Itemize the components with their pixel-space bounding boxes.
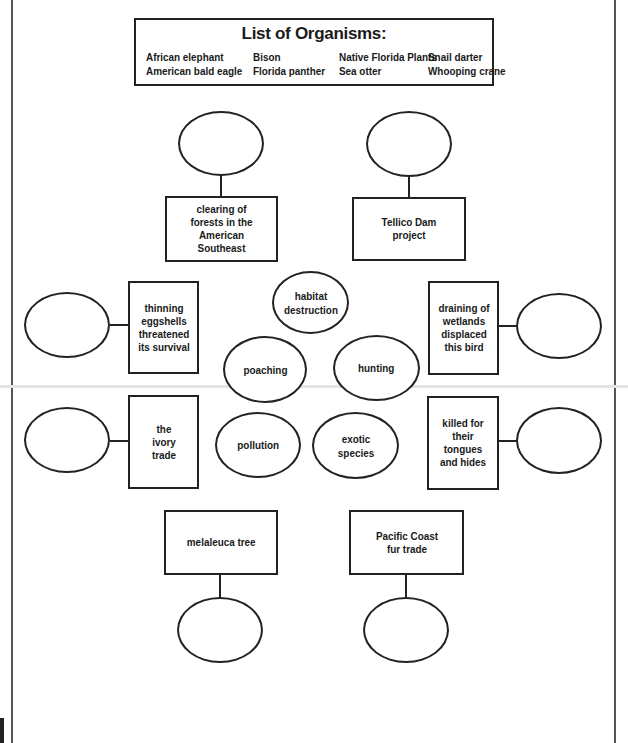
organism-item: Florida panther	[253, 64, 325, 78]
clue-box-bottom-right: Pacific Coast fur trade	[349, 510, 464, 575]
organism-item: Bison	[253, 50, 325, 64]
connector	[110, 440, 129, 442]
connector	[219, 574, 221, 598]
answer-oval-bottom-left[interactable]	[177, 597, 263, 663]
connector	[408, 176, 410, 198]
clue-box-top-left: clearing of forests in the American Sout…	[165, 196, 278, 262]
organism-item: Sea otter	[339, 64, 437, 78]
organism-item: African elephant	[146, 50, 242, 64]
cause-oval-poaching: poaching	[223, 336, 307, 403]
clue-box-mid-left-upper: thinning eggshells threatened its surviv…	[128, 281, 199, 374]
clue-box-mid-right-lower: killed for their tongues and hides	[427, 396, 499, 490]
answer-oval-mid-right-upper[interactable]	[516, 293, 602, 359]
connector	[220, 175, 222, 197]
connector	[498, 325, 517, 327]
answer-oval-mid-left-lower[interactable]	[24, 407, 110, 473]
answer-oval-mid-left-upper[interactable]	[24, 292, 110, 358]
corner-mark	[0, 718, 4, 743]
connector	[405, 574, 407, 598]
cause-oval-pollution: pollution	[215, 412, 301, 478]
clue-box-top-right: Tellico Dam project	[352, 197, 466, 261]
clue-box-mid-right-upper: draining of wetlands displaced this bird	[428, 281, 499, 375]
clue-box-mid-left-lower: the ivory trade	[128, 395, 199, 489]
cause-oval-habitat-destruction: habitat destruction	[272, 271, 349, 334]
organism-item: Snail darter	[428, 50, 506, 64]
connector	[110, 324, 129, 326]
answer-oval-bottom-right[interactable]	[363, 597, 449, 663]
organism-column-2: Bison Florida panther	[253, 50, 333, 78]
page-left-border	[11, 0, 13, 743]
organism-item: Native Florida Plants	[339, 50, 437, 64]
answer-oval-top-left[interactable]	[178, 111, 264, 176]
organism-column-4: Snail darter Whooping crane	[428, 50, 514, 78]
organism-column-1: African elephant American bald eagle	[146, 50, 253, 78]
connector	[498, 440, 517, 442]
clue-box-bottom-left: melaleuca tree	[164, 510, 278, 575]
organism-item: American bald eagle	[146, 64, 242, 78]
answer-oval-top-right[interactable]	[366, 111, 452, 177]
scan-fold-line	[0, 385, 628, 388]
answer-oval-mid-right-lower[interactable]	[516, 407, 602, 474]
organism-list-box: List of Organisms: African elephant Amer…	[134, 18, 494, 86]
organism-item: Whooping crane	[428, 64, 506, 78]
cause-oval-exotic-species: exotic species	[312, 412, 399, 479]
organism-list-title: List of Organisms:	[136, 24, 492, 44]
page-right-border	[614, 0, 616, 743]
cause-oval-hunting: hunting	[333, 335, 420, 401]
